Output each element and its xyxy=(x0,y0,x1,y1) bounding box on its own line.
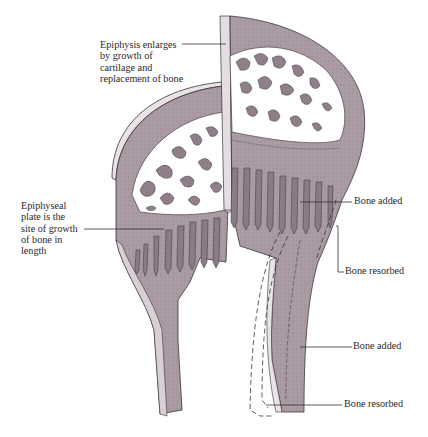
label-bone-resorbed-upper: Bone resorbed xyxy=(345,265,404,276)
label-epiphyseal-plate: Epiphyseal plate is the site of growth o… xyxy=(21,200,78,256)
left-bone-half xyxy=(112,82,232,416)
right-bone-half xyxy=(220,16,365,412)
label-bone-resorbed-lower: Bone resorbed xyxy=(344,398,403,409)
label-bone-added-upper: Bone added xyxy=(354,195,402,206)
label-bone-added-lower: Bone added xyxy=(353,340,401,351)
label-epiphysis-enlarges: Epiphysis enlarges by growth of cartilag… xyxy=(100,39,183,84)
